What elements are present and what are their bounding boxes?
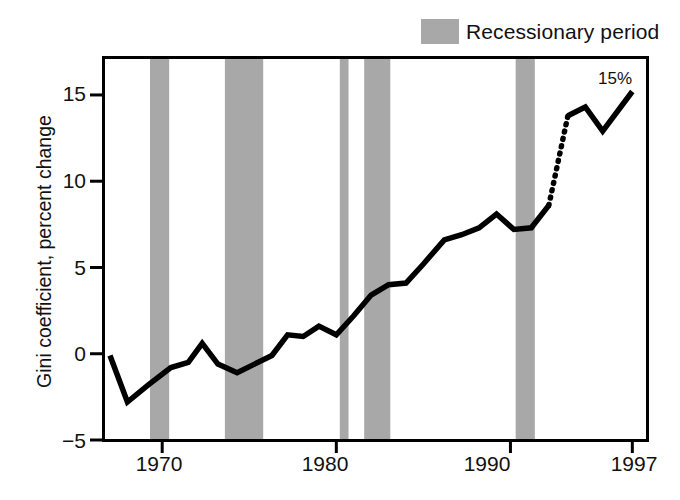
data-line-2 [568, 92, 632, 132]
data-line-0 [110, 205, 549, 402]
recession-band-2 [340, 57, 349, 440]
recession-bands-group [150, 57, 535, 440]
chart-plot-svg [0, 0, 680, 500]
data-line-1 [549, 116, 568, 206]
recession-band-1 [225, 57, 263, 440]
axis-ticks-group [90, 95, 632, 453]
recession-band-4 [516, 57, 535, 440]
recession-band-3 [364, 57, 390, 440]
chart-figure: Recessionary period Gini coefficient, pe… [0, 0, 680, 500]
